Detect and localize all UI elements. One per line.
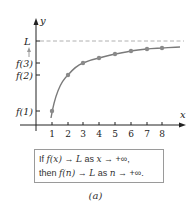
y-label-f3: f(3) (15, 58, 33, 69)
x-axis-label: x (180, 109, 186, 120)
svg-text:2: 2 (65, 129, 71, 139)
svg-text:7: 7 (144, 129, 150, 139)
svg-text:6: 6 (128, 129, 134, 139)
up-arrowhead-icon (27, 47, 31, 52)
svg-text:3: 3 (80, 129, 86, 139)
y-axis-arrow-icon (34, 18, 39, 25)
svg-text:4: 4 (96, 129, 102, 139)
svg-text:5: 5 (112, 129, 118, 139)
figure-caption: (a) (0, 190, 191, 201)
svg-text:8: 8 (159, 129, 165, 139)
y-label-L: L (23, 36, 31, 47)
annotation-box: If f(x) → L as x → +∞, then f(n) → L as … (34, 149, 164, 183)
curve-fx (51, 47, 180, 118)
x-axis-arrow-icon (179, 123, 186, 128)
y-ticks (36, 41, 40, 111)
annotation-line-1: If f(x) → L as x → +∞, (39, 152, 159, 166)
y-axis-label: y (39, 15, 46, 26)
x-tick-labels: 1 2 3 4 5 6 7 8 (49, 129, 165, 139)
annotation-line-2: then f(n) → L as n → +∞. (39, 166, 159, 180)
y-label-f2: f(2) (15, 70, 33, 81)
svg-text:1: 1 (49, 129, 55, 139)
y-label-f1: f(1) (15, 106, 33, 117)
